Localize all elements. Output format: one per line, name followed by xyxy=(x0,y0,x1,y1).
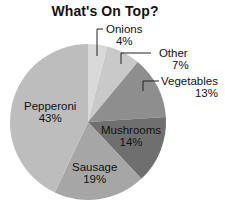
label-mushrooms-pct: 14% xyxy=(101,136,161,148)
label-other: Other 7% xyxy=(158,47,189,71)
label-mushrooms-name: Mushrooms xyxy=(101,124,161,136)
label-onions-name: Onions xyxy=(106,23,142,35)
label-sausage-pct: 19% xyxy=(72,173,117,185)
label-sausage-name: Sausage xyxy=(72,161,117,173)
label-pepperoni-name: Pepperoni xyxy=(24,100,76,112)
label-onions-pct: 4% xyxy=(106,35,142,47)
label-pepperoni-pct: 43% xyxy=(24,112,76,124)
label-vegetables-name: Vegetables xyxy=(161,75,218,87)
label-onions: Onions 4% xyxy=(106,23,142,47)
label-mushrooms: Mushrooms 14% xyxy=(101,124,161,148)
label-sausage: Sausage 19% xyxy=(72,161,117,185)
label-vegetables: Vegetables 13% xyxy=(161,75,218,99)
label-vegetables-pct: 13% xyxy=(161,87,218,99)
label-other-pct: 7% xyxy=(158,59,189,71)
label-pepperoni: Pepperoni 43% xyxy=(24,100,76,124)
label-other-name: Other xyxy=(158,47,189,59)
